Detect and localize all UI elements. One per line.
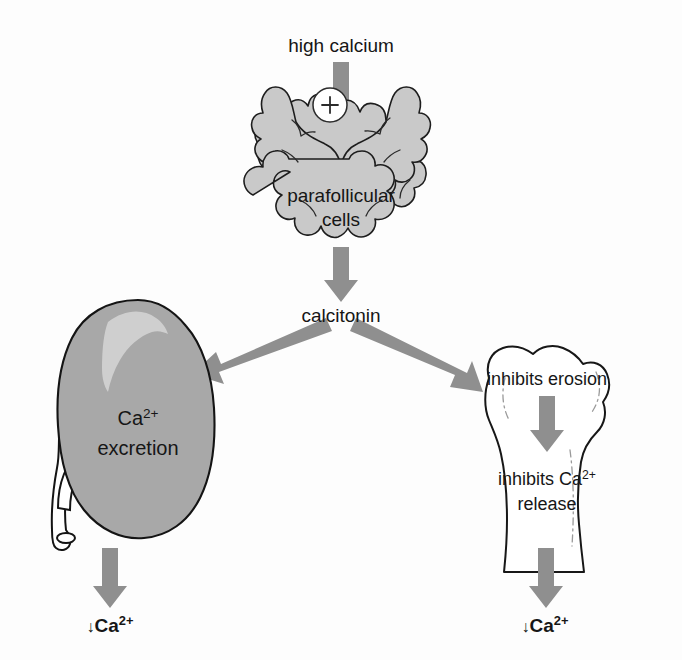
bone-label-release-line1: inhibits Ca2+ bbox=[498, 468, 596, 489]
arrow-gland-to-calcitonin bbox=[324, 247, 358, 302]
kidney-label-line2: excretion bbox=[97, 437, 178, 459]
bone-label-erosion: inhibits erosion bbox=[487, 369, 607, 389]
bone-organ: inhibits erosion inhibits Ca2+ release bbox=[485, 346, 609, 572]
stimulus-label: high calcium bbox=[288, 35, 394, 56]
gland-label-line1: parafollicular bbox=[287, 185, 395, 206]
gland-label-line2: cells bbox=[322, 209, 360, 230]
arrow-kidney-to-outcome bbox=[93, 548, 127, 608]
outcome-left-label: ↓Ca2+ bbox=[86, 613, 134, 636]
kidney-organ: Ca2+ excretion bbox=[52, 300, 215, 550]
stimulus-plus-badge bbox=[313, 88, 347, 122]
arrow-calcitonin-to-kidney bbox=[192, 318, 332, 384]
hormone-label: calcitonin bbox=[301, 305, 380, 326]
outcome-right-label: ↓Ca2+ bbox=[521, 613, 569, 636]
bone-label-release-line2: release bbox=[517, 494, 576, 514]
calcitonin-pathway-diagram: parafollicular cells bbox=[0, 0, 682, 660]
ureter-opening bbox=[57, 533, 75, 543]
diagram-canvas: parafollicular cells bbox=[0, 0, 682, 660]
arrow-calcitonin-to-bone bbox=[350, 318, 483, 392]
